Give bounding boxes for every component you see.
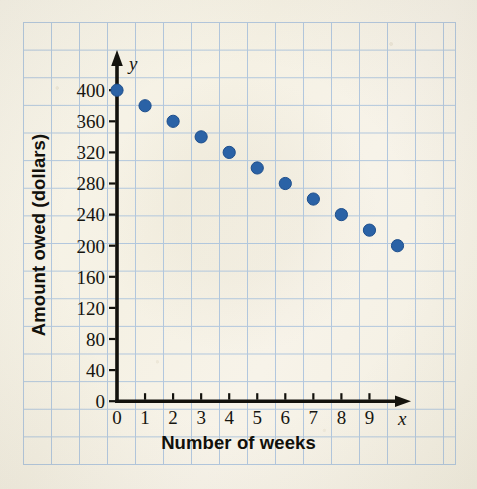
data-point <box>363 224 375 236</box>
x-axis-tick-label: 1 <box>140 407 150 428</box>
x-axis-variable-label: x <box>397 408 407 429</box>
y-axis-tick-label: 360 <box>77 111 106 132</box>
x-axis-tick-label: 3 <box>196 407 206 428</box>
data-point <box>223 146 235 158</box>
x-axis-tick-label: 5 <box>253 407 263 428</box>
x-axis-title: Number of weeks <box>0 432 477 454</box>
data-point <box>139 100 151 112</box>
data-point <box>167 115 179 127</box>
x-axis-tick-label: 2 <box>168 407 178 428</box>
data-point <box>279 177 291 189</box>
y-axis-title: Amount owed (dollars) <box>28 134 50 337</box>
y-axis-title-container: Amount owed (dollars) <box>24 110 54 360</box>
x-axis-arrowhead <box>395 395 411 407</box>
y-axis-tick-label: 160 <box>77 267 106 288</box>
y-axis-tick-label: 40 <box>86 360 105 381</box>
data-point <box>111 84 123 96</box>
x-axis-tick-labels: 0123456789 <box>112 407 374 428</box>
y-axis-tick-label: 240 <box>77 204 106 225</box>
x-axis-tick-label: 6 <box>281 407 291 428</box>
x-axis-tick-label: 7 <box>309 407 319 428</box>
data-point-group <box>111 84 404 252</box>
chart-page: 04080120160200240280320360400 0123456789… <box>0 0 477 489</box>
x-axis-tick-label: 4 <box>224 407 234 428</box>
x-axis-tick-label: 9 <box>365 407 375 428</box>
y-axis-tick-label: 200 <box>77 236 106 257</box>
y-axis-arrowhead <box>111 50 123 66</box>
data-point <box>391 240 403 252</box>
data-point <box>195 131 207 143</box>
y-axis-tick-labels: 04080120160200240280320360400 <box>77 80 106 412</box>
x-axis-tick-label: 0 <box>112 407 122 428</box>
y-axis-tick-label: 400 <box>77 80 106 101</box>
y-axis-ticks <box>109 90 116 401</box>
y-axis-tick-label: 280 <box>77 173 106 194</box>
plot-canvas: 04080120160200240280320360400 0123456789… <box>0 0 477 489</box>
y-axis-variable-label: y <box>127 53 138 74</box>
y-axis-tick-label: 120 <box>77 298 106 319</box>
data-point <box>251 162 263 174</box>
data-point <box>307 193 319 205</box>
x-axis-tick-label: 8 <box>337 407 347 428</box>
x-axis-ticks <box>145 393 369 400</box>
y-axis-tick-label: 0 <box>96 391 106 412</box>
y-axis-tick-label: 320 <box>77 142 106 163</box>
y-axis-tick-label: 80 <box>86 329 105 350</box>
data-point <box>335 209 347 221</box>
